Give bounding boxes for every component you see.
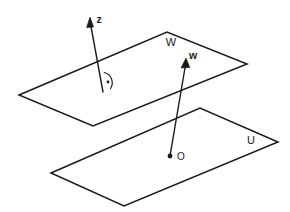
vector-z-arrowhead [87, 17, 94, 28]
point-o-dot [168, 154, 173, 159]
point-o-label: O [177, 151, 185, 162]
vector-z-shaft [90, 21, 103, 92]
plane-w-label: W [166, 36, 177, 48]
right-angle-marker-group [104, 73, 112, 89]
vector-w-shaft [170, 62, 186, 156]
vector-z-label: z [96, 13, 101, 25]
plane-w-outline [19, 32, 247, 126]
vector-w-group [170, 58, 190, 156]
diagram-canvas: W U z w O [0, 0, 290, 212]
plane-u-label: U [247, 134, 255, 146]
vector-w-label: w [188, 49, 198, 61]
geometry-diagram-svg: W U z w O [0, 0, 290, 212]
right-angle-arc [104, 73, 112, 89]
vector-z-group [87, 17, 103, 92]
plane-w-group [19, 32, 247, 126]
point-o-group [168, 154, 173, 159]
right-angle-center-dot [107, 81, 110, 84]
